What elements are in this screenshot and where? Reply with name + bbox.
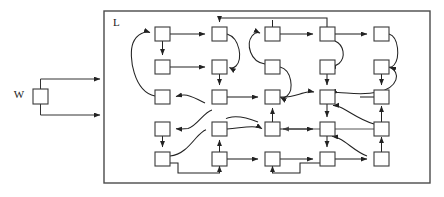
outer-block-group: W: [14, 79, 100, 115]
lead-top-wire: [41, 79, 101, 89]
edge-r3c1-curve-to-r1c1: [131, 32, 155, 96]
edge-r3c3-r3c4: [280, 92, 314, 97]
edge-curve-into-r4c2: [226, 117, 258, 122]
node-r1c2[interactable]: [212, 27, 227, 41]
node-r5c3[interactable]: [265, 152, 280, 166]
node-r3c2[interactable]: [212, 90, 227, 104]
node-r1c5[interactable]: [374, 27, 389, 41]
edge-curve-to-r3c1: [176, 95, 205, 103]
node-r3c5[interactable]: [374, 90, 389, 104]
edge-r2c3-arc-to-r1c3: [249, 33, 265, 64]
node-r1c4[interactable]: [320, 27, 335, 41]
node-r3c1[interactable]: [155, 90, 170, 104]
edge-curve-r4c5-to-r3c4: [333, 106, 374, 124]
node-r3c4[interactable]: [320, 90, 335, 104]
node-r4c1[interactable]: [155, 122, 170, 136]
node-r1c3[interactable]: [265, 27, 280, 41]
edge-curve-to-r4c1: [176, 110, 212, 129]
node-r5c2[interactable]: [212, 152, 227, 166]
edge-r4c2-curve-to-r4c3: [227, 127, 262, 129]
node-r5c5[interactable]: [374, 152, 389, 166]
edge-r1c5-curve-to-r2c5: [389, 34, 398, 67]
node-r4c3[interactable]: [265, 122, 280, 136]
node-r2c4[interactable]: [320, 60, 335, 74]
node-r2c2[interactable]: [212, 60, 227, 74]
edge-r5c5-curve-to-r4c4: [332, 136, 367, 156]
node-r5c1[interactable]: [155, 152, 170, 166]
node-w[interactable]: [33, 89, 48, 104]
node-r4c4[interactable]: [320, 122, 335, 136]
edge-r5c1-curve-up-to-r4c2: [170, 130, 206, 156]
node-r5c4[interactable]: [320, 152, 335, 166]
node-r2c3[interactable]: [265, 60, 280, 74]
node-r1c1[interactable]: [155, 27, 170, 41]
block-diagram-svg: W L: [0, 0, 444, 197]
label-w: W: [14, 88, 25, 100]
lead-bottom-wire: [41, 104, 101, 115]
label-l: L: [113, 16, 120, 28]
node-r4c5[interactable]: [374, 122, 389, 136]
node-r4c2[interactable]: [212, 122, 227, 136]
edge-r2c3-curve-to-r3c3: [280, 67, 291, 98]
edge-r1c2-curve-to-r2c2: [227, 34, 240, 68]
node-r2c1[interactable]: [155, 60, 170, 74]
node-r3c3[interactable]: [265, 90, 280, 104]
node-r2c5[interactable]: [374, 60, 389, 74]
edge-r1c4-top-to-r1c2-top: [220, 18, 328, 27]
diagram-canvas: W L: [0, 0, 444, 197]
